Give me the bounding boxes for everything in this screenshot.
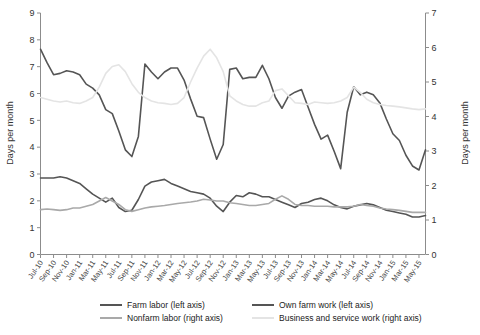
legend-label: Business and service work (right axis)	[279, 313, 422, 323]
left-tick-label: 9	[29, 8, 34, 18]
left-axis-title-text: Days per month	[5, 101, 15, 165]
right-tick-label: 0	[432, 250, 437, 260]
right-tick-label: 3	[432, 146, 437, 156]
left-tick-label: 0	[29, 250, 34, 260]
right-tick-label: 1	[432, 215, 437, 225]
left-tick-label: 6	[29, 89, 34, 99]
legend-label: Farm labor (left axis)	[127, 300, 205, 310]
left-tick-label: 5	[29, 116, 34, 126]
left-tick-label: 4	[29, 142, 34, 152]
left-axis-title: Days per month	[5, 101, 15, 165]
right-axis-title-text: Days per month	[460, 101, 470, 165]
plot-background	[0, 0, 480, 335]
right-axis-title: Days per month	[460, 101, 470, 165]
left-tick-label: 3	[29, 169, 34, 179]
legend-label: Own farm work (left axis)	[279, 300, 373, 310]
left-tick-label: 8	[29, 35, 34, 45]
left-tick-label: 7	[29, 62, 34, 72]
chart-container: 0123456789 01234567 Jul-10Sep-10Nov-10Ja…	[0, 0, 480, 335]
right-tick-label: 7	[432, 8, 437, 18]
right-tick-label: 2	[432, 181, 437, 191]
left-tick-label: 2	[29, 196, 34, 206]
line-chart: 0123456789 01234567 Jul-10Sep-10Nov-10Ja…	[0, 0, 480, 335]
left-tick-label: 1	[29, 223, 34, 233]
legend-label: Nonfarm labor (right axis)	[127, 313, 223, 323]
right-tick-label: 5	[432, 77, 437, 87]
right-tick-label: 4	[432, 112, 437, 122]
right-tick-label: 6	[432, 43, 437, 53]
